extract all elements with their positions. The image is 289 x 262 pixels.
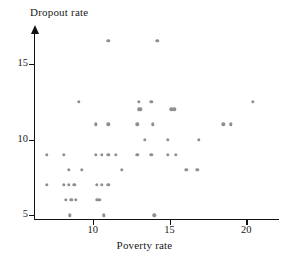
y-tick-label: 5	[6, 208, 28, 219]
data-point	[45, 183, 48, 186]
data-point	[94, 123, 97, 126]
y-tick-mark	[29, 140, 35, 141]
y-tick-mark	[29, 215, 35, 216]
data-point	[222, 123, 225, 126]
x-axis-title: Poverty rate	[0, 239, 289, 251]
data-point	[149, 100, 152, 103]
data-point	[68, 214, 71, 217]
y-axis-arrow-icon	[31, 25, 39, 34]
data-point	[137, 100, 140, 103]
data-point	[139, 108, 142, 111]
data-point	[166, 153, 169, 156]
data-point	[106, 39, 109, 42]
data-point	[106, 153, 109, 156]
data-point	[185, 168, 188, 171]
data-point	[166, 138, 169, 141]
y-axis-title: Dropout rate	[30, 6, 88, 18]
data-point	[106, 123, 109, 126]
scatter-plot-figure: Dropout rate 51015101520 Poverty rate	[0, 0, 289, 262]
data-point	[62, 183, 65, 186]
y-axis-line	[34, 34, 35, 220]
data-point	[229, 123, 232, 126]
y-tick-label: 10	[6, 133, 28, 144]
data-point	[94, 153, 97, 156]
data-point	[136, 153, 139, 156]
data-point	[149, 153, 152, 156]
data-point	[67, 183, 70, 186]
data-point	[67, 168, 70, 171]
data-point	[114, 153, 117, 156]
data-point	[151, 123, 154, 126]
data-point	[80, 168, 83, 171]
data-point	[102, 214, 105, 217]
data-point	[74, 198, 77, 201]
y-tick-mark	[29, 64, 35, 65]
data-point	[100, 183, 103, 186]
x-tick-label: 15	[158, 224, 182, 235]
data-point	[197, 138, 200, 141]
data-point	[251, 100, 254, 103]
data-point	[98, 198, 101, 201]
data-point	[136, 123, 139, 126]
data-point	[120, 168, 123, 171]
data-point	[77, 100, 80, 103]
data-point	[174, 153, 177, 156]
x-axis-line	[34, 219, 279, 220]
data-point	[73, 183, 76, 186]
y-tick-label: 15	[6, 57, 28, 68]
data-point	[45, 153, 48, 156]
data-point	[95, 183, 98, 186]
data-point	[172, 108, 175, 111]
data-point	[196, 168, 199, 171]
plot-area: 51015101520	[34, 30, 280, 220]
x-tick-label: 20	[234, 224, 258, 235]
data-point	[100, 153, 103, 156]
data-point	[153, 214, 156, 217]
data-point	[64, 198, 67, 201]
data-point	[106, 183, 109, 186]
data-point	[62, 153, 65, 156]
data-point	[70, 198, 73, 201]
x-tick-label: 10	[81, 224, 105, 235]
data-point	[156, 39, 159, 42]
data-point	[143, 138, 146, 141]
